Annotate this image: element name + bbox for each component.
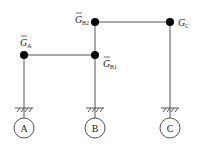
node-b1: [91, 51, 99, 59]
label-ga: G A: [20, 36, 32, 49]
source-b-label: B: [92, 123, 99, 134]
node-c: [166, 18, 174, 26]
source-c: C: [160, 118, 180, 138]
svg-text:C: C: [185, 23, 189, 29]
busbar-diagram: A B C G A G B1 G B2 G C: [0, 0, 198, 150]
source-a: A: [14, 118, 34, 138]
node-a: [20, 51, 28, 59]
label-gc: G C: [178, 17, 189, 29]
source-a-label: A: [20, 123, 28, 134]
source-c-label: C: [167, 123, 174, 134]
source-b: B: [85, 118, 105, 138]
label-gb2: G B2: [75, 13, 89, 26]
svg-text:B2: B2: [82, 20, 89, 26]
label-gb1: G B1: [103, 57, 117, 70]
node-b2: [91, 18, 99, 26]
svg-text:B1: B1: [110, 64, 117, 70]
svg-text:A: A: [27, 43, 32, 49]
